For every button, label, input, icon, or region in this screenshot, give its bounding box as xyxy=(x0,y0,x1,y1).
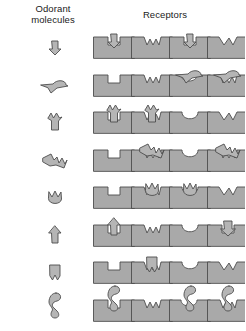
receptor-block-u-round xyxy=(170,150,211,171)
receptor-r1-c2 xyxy=(132,37,173,58)
receptor-block-u-round xyxy=(170,225,211,246)
molecule-row-7 xyxy=(50,265,60,280)
receptor-r4-c1 xyxy=(94,150,135,171)
molecule-row-3 xyxy=(48,113,62,130)
bound-molecule-flame-tulip xyxy=(146,183,159,196)
receptor-r5-c4 xyxy=(208,187,246,208)
receptor-r7-c4 xyxy=(208,262,246,283)
receptor-block-w-zigzag xyxy=(132,300,173,321)
receptor-r6-c4 xyxy=(208,221,246,246)
receptor-r5-c2 xyxy=(132,183,173,208)
molecule-up-arrow-tall xyxy=(49,226,61,243)
bound-molecule-s-curve-bone xyxy=(222,286,234,311)
receptor-r1-c4 xyxy=(208,37,246,58)
receptor-block-square xyxy=(94,75,135,96)
receptor-r3-c2 xyxy=(132,105,173,133)
receptor-r8-c4 xyxy=(208,286,246,321)
receptor-r2-c4 xyxy=(208,71,246,96)
receptor-r8-c2 xyxy=(132,300,173,321)
odorant-receptor-diagram: Odorant molecules Receptors xyxy=(0,0,245,331)
receptor-r7-c3 xyxy=(170,262,211,283)
receptor-block-square xyxy=(94,150,135,171)
bound-molecule-flame-tulip xyxy=(184,183,197,196)
receptor-r4-c2 xyxy=(132,144,173,171)
receptor-r7-c2 xyxy=(132,257,173,283)
bound-molecule-s-curve-bone xyxy=(108,286,120,311)
receptor-r6-c3 xyxy=(170,225,211,246)
molecule-s-curve-bone xyxy=(49,293,61,318)
molecule-tadpole-wing xyxy=(41,81,68,93)
molecule-row-6 xyxy=(49,226,61,243)
receptor-r1-c1 xyxy=(94,34,135,58)
receptor-r7-c1 xyxy=(94,262,135,283)
molecule-down-arrow xyxy=(49,41,61,55)
bound-molecule-s-curve-bone xyxy=(184,286,196,311)
receptor-block-v-wedge xyxy=(208,112,246,133)
receptor-r2-c2 xyxy=(132,75,173,96)
receptor-r4-c3 xyxy=(170,150,211,171)
receptor-block-square xyxy=(94,262,135,283)
molecule-flame-tulip xyxy=(49,191,62,204)
receptor-r2-c1 xyxy=(94,75,135,96)
bound-molecule-up-arrow-tall xyxy=(108,218,120,235)
molecule-row-8 xyxy=(49,293,61,318)
receptor-r3-c3 xyxy=(170,112,211,133)
receptor-r6-c1 xyxy=(94,218,135,246)
receptor-r8-c1 xyxy=(94,286,135,321)
molecule-row-1 xyxy=(49,41,61,55)
molecule-row-2 xyxy=(41,81,68,93)
receptor-block-w-zigzag xyxy=(132,75,173,96)
receptor-r5-c3 xyxy=(170,183,211,208)
receptor-block-v-wedge xyxy=(208,262,246,283)
receptor-r4-c4 xyxy=(208,144,246,171)
receptor-r3-c4 xyxy=(208,112,246,133)
receptor-block-w-zigzag xyxy=(132,37,173,58)
receptor-block-w-zigzag xyxy=(132,225,173,246)
receptor-block-u-round xyxy=(170,262,211,283)
bound-molecule-double-spike-arrow xyxy=(107,105,121,122)
diagram-grid xyxy=(0,0,245,331)
molecule-row-5 xyxy=(49,191,62,204)
molecule-bell-notch xyxy=(50,265,60,280)
receptor-block-v-wedge xyxy=(208,37,246,58)
receptor-block-square xyxy=(94,187,135,208)
receptor-r8-c3 xyxy=(170,286,211,321)
receptor-r6-c2 xyxy=(132,225,173,246)
receptor-r1-c3 xyxy=(170,34,211,58)
molecule-double-spike-arrow xyxy=(48,113,62,130)
receptor-r5-c1 xyxy=(94,187,135,208)
receptor-r3-c1 xyxy=(94,105,135,133)
molecule-row-4 xyxy=(43,154,67,168)
receptor-block-v-wedge xyxy=(208,187,246,208)
receptor-r2-c3 xyxy=(170,71,211,96)
receptor-block-u-round xyxy=(170,112,211,133)
molecule-arrowhead-zigzag xyxy=(43,154,67,168)
